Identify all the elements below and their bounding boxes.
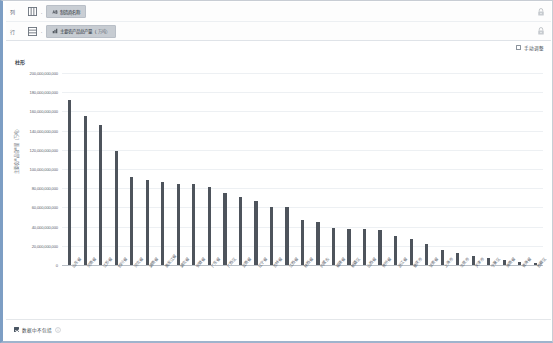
x-label-slot: 云南省 [233,265,249,309]
x-label-slot: 宁夏区 [481,265,497,309]
bar[interactable] [347,229,350,265]
columns-shelf-row[interactable]: 列 . 制造商名称 [6,2,551,21]
bar-slot [264,73,280,265]
x-label-slot: 河南省 [78,265,94,309]
x-label-slot: 甘肃省 [419,265,435,309]
y-axis-tick-label: 120,000,000,000 [30,147,58,152]
bar[interactable] [208,187,211,265]
bar-slot [295,73,311,265]
bar[interactable] [99,125,102,265]
x-label-slot: 黑龙江省 [155,265,171,309]
pill-manufacturer-name[interactable]: 制造商名称 [46,5,86,18]
y-axis-tick-label: 40,000,000,000 [32,224,58,229]
bar[interactable] [192,184,195,265]
x-label-slot: 青海省 [512,265,528,309]
y-axis-tick-label: 60,000,000,000 [32,205,58,210]
bar[interactable] [239,197,242,265]
y-axis-tick-label: 180,000,000,000 [30,90,58,95]
chart-option-bar: 手动调整 [6,41,551,54]
x-label-slot: 北京市 [450,265,466,309]
x-label-slot: 河北省 [124,265,140,309]
checkbox-box[interactable] [516,45,521,50]
manual-adjust-checkbox[interactable]: 手动调整 [516,45,544,51]
bar-slot [140,73,156,265]
y-axis-tick-label: 160,000,000,000 [30,109,58,114]
x-label-slot: 江西省 [279,265,295,309]
bar-slot [248,73,264,265]
x-label-slot: 广西区 [217,265,233,309]
checkbox-box[interactable] [14,327,19,332]
bar-slot [62,73,78,265]
columns-shelf-label: 列 [10,8,27,15]
x-axis-labels: 山东省河南省江苏省四川省河北省湖南省黑龙江省湖北省安徽省广东省广西区云南省辽宁省… [62,265,543,309]
x-label-slot: 新疆区 [341,265,357,309]
bar[interactable] [378,230,381,265]
x-label-slot: 海南省 [496,265,512,309]
bar[interactable] [68,100,71,265]
bar-slot [357,73,373,265]
x-label-slot: 天津市 [465,265,481,309]
x-label-slot: 湖南省 [140,265,156,309]
bar[interactable] [363,229,366,265]
bar[interactable] [254,201,257,265]
y-axis-tick-label: 20,000,000,000 [32,243,58,248]
bar[interactable] [394,236,397,265]
bar[interactable] [410,239,413,265]
rows-shelf-row[interactable]: 行 . 主要农产品总产量（ 万吨） [6,21,551,40]
bar-slot [217,73,233,265]
x-label-slot: 上海市 [434,265,450,309]
bar[interactable] [301,220,304,265]
bar[interactable] [332,228,335,265]
x-label-slot: 四川省 [109,265,125,309]
rows-shelf-label: 行 [10,28,27,35]
manual-adjust-label: 手动调整 [524,45,544,51]
x-label-slot: 江苏省 [93,265,109,309]
bar-slot [527,73,543,265]
x-label-slot: 山西省 [357,265,373,309]
bar[interactable] [223,193,226,265]
bar-slot [419,73,435,265]
shelf-area: 列 . 制造商名称 [6,2,551,41]
bar-series [62,73,543,265]
bar-slot [202,73,218,265]
abc-text-icon [52,9,58,15]
bar[interactable] [270,207,273,265]
bar-slot [233,73,249,265]
x-label-slot: 贵州省 [372,265,388,309]
bar[interactable] [130,177,133,265]
bar[interactable] [115,151,118,265]
pill-manufacturer-label: 制造商名称 [60,9,80,15]
x-label-slot: 安徽省 [186,265,202,309]
x-label-slot: 浙江省 [388,265,404,309]
bar-slot [388,73,404,265]
bar-slot [434,73,450,265]
bar-slot [78,73,94,265]
exclude-data-checkbox[interactable]: 数据中不包括 [14,327,52,333]
bar-slot [450,73,466,265]
y-axis-title: 主要农产品总产量（万吨） [13,127,19,174]
lock-icon[interactable] [537,7,545,16]
chart-viewport[interactable]: 柱形 主要农产品总产量（万吨） 200,000,000,000180,000,0… [6,54,551,317]
plot-area: 200,000,000,000180,000,000,000160,000,00… [62,73,543,265]
bar[interactable] [285,207,288,265]
x-label-slot: 吉林省 [264,265,280,309]
lock-icon[interactable] [537,27,545,36]
bar[interactable] [177,184,180,265]
pill-total-agricultural-output[interactable]: 主要农产品总产量（ 万吨） [46,25,116,38]
y-axis-tick-label: 100,000,000,000 [30,167,58,172]
bar-slot [341,73,357,265]
bar-slot [465,73,481,265]
x-label-slot: 内蒙古 [310,265,326,309]
bar[interactable] [84,116,87,265]
chart-title: 柱形 [15,58,25,65]
measure-icon [52,28,58,34]
info-icon[interactable] [55,327,61,333]
x-label-slot: 重庆市 [403,265,419,309]
pill-output-label: 主要农产品总产量（ [60,28,96,34]
bar[interactable] [316,222,319,265]
bar-slot [326,73,342,265]
bar[interactable] [161,182,164,265]
bar[interactable] [146,180,149,265]
x-label-slot: 湖北省 [171,265,187,309]
bar-slot [496,73,512,265]
